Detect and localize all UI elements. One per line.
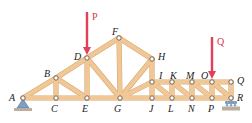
joint-label-I: I	[158, 70, 163, 81]
joint-O	[210, 80, 214, 84]
member-AB	[23, 78, 56, 98]
roller-wheel-icon	[230, 104, 232, 106]
joint-label-B: B	[44, 68, 50, 79]
joint-label-P: P	[207, 103, 214, 114]
ground-hatch-icon	[222, 107, 240, 111]
roller-wheel-icon	[226, 104, 228, 106]
joint-N	[190, 96, 194, 100]
joint-E	[85, 96, 89, 100]
truss-members	[23, 38, 231, 98]
joint-label-M: M	[185, 70, 195, 81]
member-BE	[56, 78, 87, 98]
joint-label-Q: Q	[237, 75, 245, 86]
joint-G	[118, 96, 122, 100]
joint-label-E: E	[81, 103, 88, 114]
joint-D	[85, 56, 89, 60]
joint-label-R: R	[236, 92, 243, 103]
joint-label-C: C	[51, 103, 58, 114]
roller-wheel-icon	[234, 104, 236, 106]
joint-label-N: N	[187, 103, 196, 114]
joint-I	[150, 80, 154, 84]
load-label-P: P	[92, 11, 98, 22]
joint-A	[21, 96, 25, 100]
joint-label-G: G	[114, 103, 121, 114]
joint-label-A: A	[8, 92, 16, 103]
ground-hatch-icon	[14, 108, 32, 111]
supports	[14, 99, 240, 111]
joint-label-F: F	[111, 26, 119, 37]
joint-Q	[229, 80, 233, 84]
joint-J	[150, 96, 154, 100]
joint-label-D: D	[73, 51, 82, 62]
joint-H	[150, 57, 154, 61]
member-DF	[87, 38, 119, 58]
member-FG	[119, 38, 120, 98]
joint-L	[170, 96, 174, 100]
joint-labels: ABCDEFGHIJKLMNOPQR	[8, 26, 245, 114]
joint-P	[210, 96, 214, 100]
joint-label-K: K	[169, 70, 178, 81]
joint-label-H: H	[157, 51, 166, 62]
joint-B	[54, 76, 58, 80]
member-DG	[87, 58, 120, 98]
truss-figure: ABCDEFGHIJKLMNOPQR PQ	[0, 0, 252, 123]
member-BD	[56, 58, 87, 78]
joint-label-L: L	[167, 103, 174, 114]
joint-C	[54, 96, 58, 100]
truss-diagram: ABCDEFGHIJKLMNOPQR PQ	[0, 0, 252, 123]
joint-R	[229, 96, 233, 100]
load-label-Q: Q	[217, 36, 225, 47]
joint-label-O: O	[201, 70, 208, 81]
roller-support-icon	[225, 101, 237, 104]
arrow-down-icon	[208, 71, 216, 79]
member-FH	[119, 38, 152, 59]
joint-label-J: J	[149, 103, 154, 114]
